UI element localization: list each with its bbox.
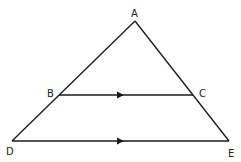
segment-ad [12,21,135,141]
label-a: A [131,8,138,19]
label-b: B [47,88,54,99]
label-d: D [6,146,14,157]
parallel-arrow-bc-icon [117,92,124,99]
label-c: C [199,88,206,99]
parallel-arrow-de-icon [117,138,124,145]
segment-ae [135,21,229,141]
triangle-diagram: A B C D E [0,0,241,162]
label-e: E [228,148,234,159]
